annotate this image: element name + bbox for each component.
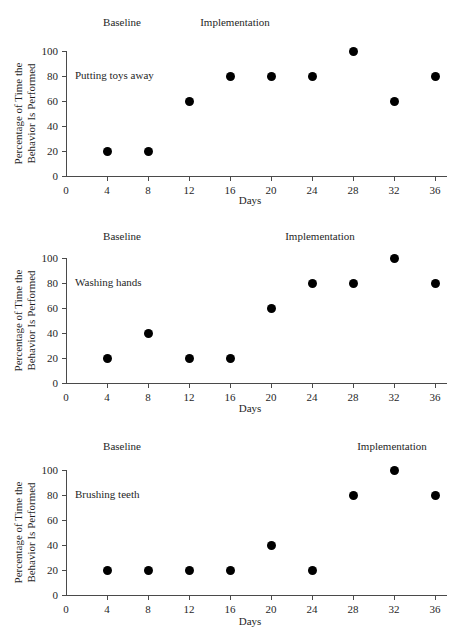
x-axis-tick xyxy=(189,596,190,600)
x-axis-tick-label: 0 xyxy=(63,603,69,615)
phase-label-implementation: Implementation xyxy=(357,440,427,453)
x-axis-tick xyxy=(271,596,272,600)
x-axis-tick xyxy=(312,596,313,600)
data-point xyxy=(226,566,235,575)
data-point xyxy=(390,466,399,475)
x-axis-tick xyxy=(107,596,108,600)
x-axis-tick-label: 12 xyxy=(184,603,195,615)
x-axis-tick-label: 28 xyxy=(348,603,359,615)
y-axis-tick xyxy=(62,495,66,496)
phase-label-baseline: Baseline xyxy=(103,440,141,453)
data-point xyxy=(185,566,194,575)
x-axis-tick-label: 36 xyxy=(430,603,441,615)
y-axis-tick xyxy=(62,570,66,571)
x-axis-tick-label: 32 xyxy=(389,603,400,615)
multi-panel-scatter-figure: BaselineImplementation020406080100048121… xyxy=(0,0,458,637)
data-point xyxy=(349,491,358,500)
x-axis-tick-label: 20 xyxy=(266,603,277,615)
y-axis-line xyxy=(66,470,67,596)
behavior-label: Brushing teeth xyxy=(75,488,139,501)
x-axis-tick xyxy=(435,596,436,600)
data-point xyxy=(144,566,153,575)
data-point xyxy=(267,541,276,550)
x-axis-tick xyxy=(394,596,395,600)
chart-panel: BaselineImplementation020406080100048121… xyxy=(0,0,458,637)
x-axis-tick-label: 24 xyxy=(307,603,318,615)
data-point xyxy=(103,566,112,575)
x-axis-tick xyxy=(230,596,231,600)
y-axis-title-line-1: Percentage of Time the xyxy=(12,468,25,597)
x-axis-line xyxy=(66,595,447,596)
y-axis-tick xyxy=(62,545,66,546)
y-axis-tick xyxy=(62,470,66,471)
data-point xyxy=(308,566,317,575)
x-axis-title: Days xyxy=(239,615,262,628)
x-axis-tick xyxy=(353,596,354,600)
y-axis-title: Percentage of Time theBehavior Is Perfor… xyxy=(12,468,38,597)
data-point xyxy=(431,491,440,500)
x-axis-tick-label: 8 xyxy=(145,603,151,615)
x-axis-tick-label: 16 xyxy=(225,603,236,615)
y-axis-tick xyxy=(62,520,66,521)
y-axis-title-line-2: Behavior Is Performed xyxy=(25,468,38,597)
x-axis-tick xyxy=(148,596,149,600)
y-axis-tick xyxy=(62,595,66,596)
x-axis-tick-label: 4 xyxy=(104,603,110,615)
